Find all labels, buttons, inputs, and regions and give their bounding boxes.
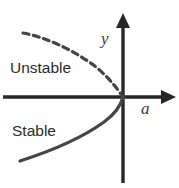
- x-axis-arrowhead: [161, 90, 176, 104]
- plot-canvas: y a Unstable Stable: [0, 0, 179, 188]
- y-axis-label: y: [99, 29, 109, 48]
- unstable-branch-label: Unstable: [10, 59, 71, 76]
- stable-branch-label: Stable: [12, 122, 56, 139]
- bifurcation-diagram-figure: y a Unstable Stable: [0, 0, 179, 188]
- x-axis-label: a: [141, 99, 150, 118]
- y-axis-arrowhead: [116, 13, 130, 28]
